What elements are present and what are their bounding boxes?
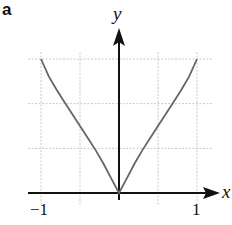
- x-axis: [28, 187, 220, 199]
- y-axis: [113, 28, 125, 200]
- y-axis-label: y: [111, 3, 122, 24]
- x-tick-label: −1: [30, 200, 48, 219]
- x-tick-label: 1: [192, 200, 201, 219]
- chart: x y −1 1: [0, 0, 232, 225]
- x-axis-label: x: [221, 181, 231, 202]
